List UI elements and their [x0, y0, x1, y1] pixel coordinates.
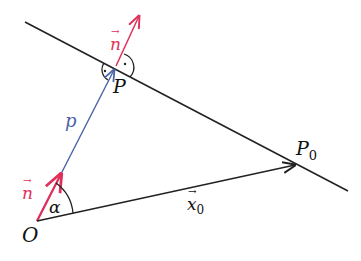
diagram-svg — [0, 0, 361, 261]
label-point-P: P — [113, 77, 126, 96]
label-x0-text: x — [187, 194, 197, 214]
vec-arrow-n-bottom: → — [23, 176, 31, 186]
label-n-bottom-text: n — [22, 183, 33, 203]
label-P0-text: P — [296, 137, 309, 159]
label-origin-O: O — [22, 225, 38, 245]
label-angle-alpha: α — [49, 199, 60, 216]
label-vector-x0: → x0 — [187, 196, 204, 216]
label-x0-subscript: 0 — [197, 203, 205, 217]
right-angle-dot-left — [104, 70, 106, 72]
right-angle-arc-right — [124, 54, 134, 77]
label-P0-subscript: 0 — [309, 148, 317, 163]
line-g — [25, 22, 348, 191]
label-normal-top: → n — [110, 36, 121, 53]
vec-arrow-x0: → — [188, 187, 196, 197]
label-point-P0: P0 — [296, 139, 317, 162]
vec-arrow-n-top: → — [111, 27, 119, 37]
label-n-top-text: n — [110, 34, 121, 54]
hesse-normal-form-diagram: → n P p → n α O → x0 P0 — [0, 0, 361, 261]
right-angle-dot-right — [124, 63, 126, 65]
vector-x0-arrow — [37, 165, 295, 221]
label-distance-p: p — [65, 112, 77, 130]
label-normal-bottom: → n — [22, 185, 33, 202]
